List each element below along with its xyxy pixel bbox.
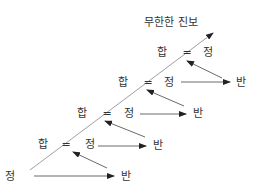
dialectic-diagram: 무한한 진보 합 = 정 합 = 정 반 합 = 정 반 합 = 정 반 정 반 [0,0,267,195]
level1-thesis: 정 [85,139,95,150]
base-antithesis: 반 [121,171,131,182]
level1-synthesis: 합 [38,139,48,150]
level3-antithesis: 반 [236,77,246,88]
level1-equals: = [61,139,70,150]
level1-antithesis-to-synthesis-arrow [73,152,107,168]
level4-thesis: 정 [203,47,213,58]
level4-antithesis-to-synthesis-arrow [187,61,222,78]
base-thesis: 정 [5,171,15,182]
diagram-lines [0,0,267,195]
level1-antithesis: 반 [153,140,163,151]
level2-thesis: 정 [124,108,134,119]
level3-antithesis-to-synthesis-arrow [147,90,184,106]
level3-equals: = [143,77,152,88]
level4-equals: = [182,47,191,58]
diagram-title: 무한한 진보 [144,17,198,28]
level3-synthesis: 합 [118,77,128,88]
level2-antithesis: 반 [193,108,203,119]
level3-thesis: 정 [164,77,174,88]
level4-synthesis: 합 [157,47,167,58]
level2-equals: = [102,108,111,119]
level2-synthesis: 합 [77,108,87,119]
level2-antithesis-to-synthesis-arrow [105,121,145,137]
